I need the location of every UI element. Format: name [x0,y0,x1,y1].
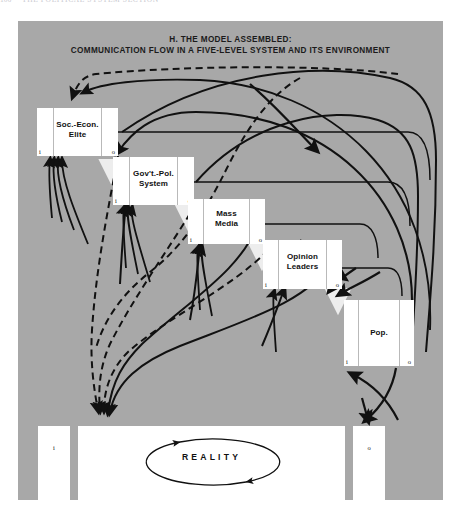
output-gate-label: o [408,358,411,365]
diagram-title: H. THE MODEL ASSEMBLED: COMMUNICATION FL… [18,34,443,56]
reality-center-segment[interactable]: REALITY [78,426,345,500]
reality-circulation-ellipse [78,426,345,500]
output-gate-label: o [336,281,339,288]
level-label-opinion-leaders: Opinion Leaders [263,252,342,271]
reality-output-segment[interactable]: o [353,426,385,500]
level-box-soc-econ-elite[interactable]: Soc.-Econ. Elite i o [37,108,118,156]
diagram-page: 106 THE POLITICAL SYSTEM SECTION H. THE … [0,0,455,522]
level-label-line-1: Mass [216,209,236,218]
reality-input-segment[interactable]: i [38,426,70,500]
diagram-title-line-2: COMMUNICATION FLOW IN A FIVE-LEVEL SYSTE… [18,45,443,56]
level-box-mass-media[interactable]: Mass Media i o [188,199,265,244]
output-gate-label: o [259,236,262,243]
reality-input-label: i [38,444,70,451]
level-label-line-2: Media [215,219,238,228]
input-gate-label: i [346,358,348,365]
output-gate-label: o [112,148,115,155]
level-label-mass-media: Mass Media [188,209,265,228]
level-label-line-2: Leaders [287,262,318,271]
level-label-soc-econ-elite: Soc.-Econ. Elite [37,120,118,139]
level-label-line-1: Soc.-Econ. [56,120,98,129]
input-gate-label: i [115,197,117,204]
level-label-line-1: Pop. [370,328,388,337]
reality-output-label: o [353,444,385,451]
level-box-population[interactable]: Pop. i o [344,300,414,366]
level-label-line-1: Gov't.-Pol. [133,169,174,178]
level-label-population: Pop. [344,328,414,338]
diagram-title-line-1: H. THE MODEL ASSEMBLED: [18,34,443,45]
input-gate-label: i [39,148,41,155]
running-head-text: THE POLITICAL SYSTEM SECTION [22,0,159,4]
input-gate-label: i [190,236,192,243]
level-label-line-2: Elite [69,130,86,139]
level-box-opinion-leaders[interactable]: Opinion Leaders i o [263,240,342,289]
input-gate-label: i [265,281,267,288]
level-label-govt-pol-system: Gov't.-Pol. System [113,169,194,188]
running-head: 106 THE POLITICAL SYSTEM SECTION [0,0,455,10]
running-head-page-number: 106 [0,0,11,4]
level-label-line-1: Opinion [287,252,318,261]
level-box-govt-pol-system[interactable]: Gov't.-Pol. System i o [113,157,194,205]
level-label-line-2: System [139,179,168,188]
